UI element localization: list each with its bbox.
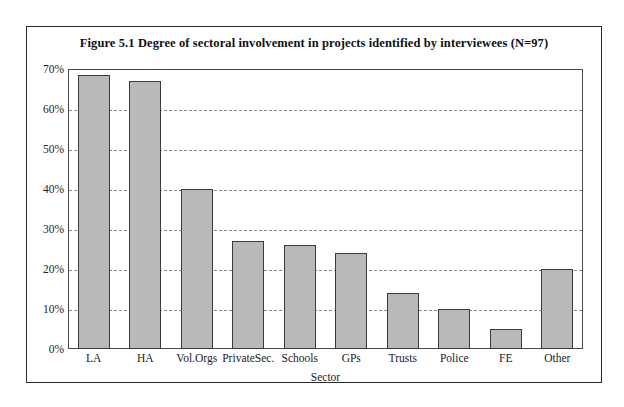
y-axis-tick-label: 10% [26,303,64,315]
y-axis-tick-label: 70% [26,63,64,75]
x-axis-tick-label: GPs [342,352,361,364]
bar [181,189,213,349]
x-axis-tick-label: Other [544,352,570,364]
x-axis-tick-label: LA [86,352,101,364]
bar [129,81,161,349]
bar [232,241,264,349]
bar [284,245,316,349]
y-axis-tick-label: 50% [26,143,64,155]
bar [541,269,573,349]
x-axis-tick-label: Trusts [389,352,417,364]
bar [335,253,367,349]
y-axis-tick-label: 20% [26,263,64,275]
bar [387,293,419,349]
bar [78,75,110,349]
figure-root: Figure 5.1 Degree of sectoral involvemen… [0,0,624,407]
y-axis: 0%10%20%30%40%50%60%70% [26,69,64,349]
y-axis-tick-label: 40% [26,183,64,195]
chart-title: Figure 5.1 Degree of sectoral involvemen… [26,36,602,51]
y-axis-tick-label: 0% [26,343,64,355]
bar [438,309,470,349]
y-axis-tick-label: 60% [26,103,64,115]
x-axis-title: Sector [68,371,583,383]
bar [490,329,522,349]
x-axis-tick-label: Schools [282,352,318,364]
x-axis: LAHAVol.OrgsPrivateSec.SchoolsGPsTrustsP… [68,352,583,372]
x-axis-tick-label: HA [137,352,154,364]
x-axis-tick-label: FE [499,352,512,364]
x-axis-tick-label: Vol.Orgs [176,352,217,364]
x-axis-tick-label: PrivateSec. [222,352,274,364]
bar-series [68,69,583,349]
x-axis-tick-label: Police [440,352,469,364]
y-axis-tick-label: 30% [26,223,64,235]
